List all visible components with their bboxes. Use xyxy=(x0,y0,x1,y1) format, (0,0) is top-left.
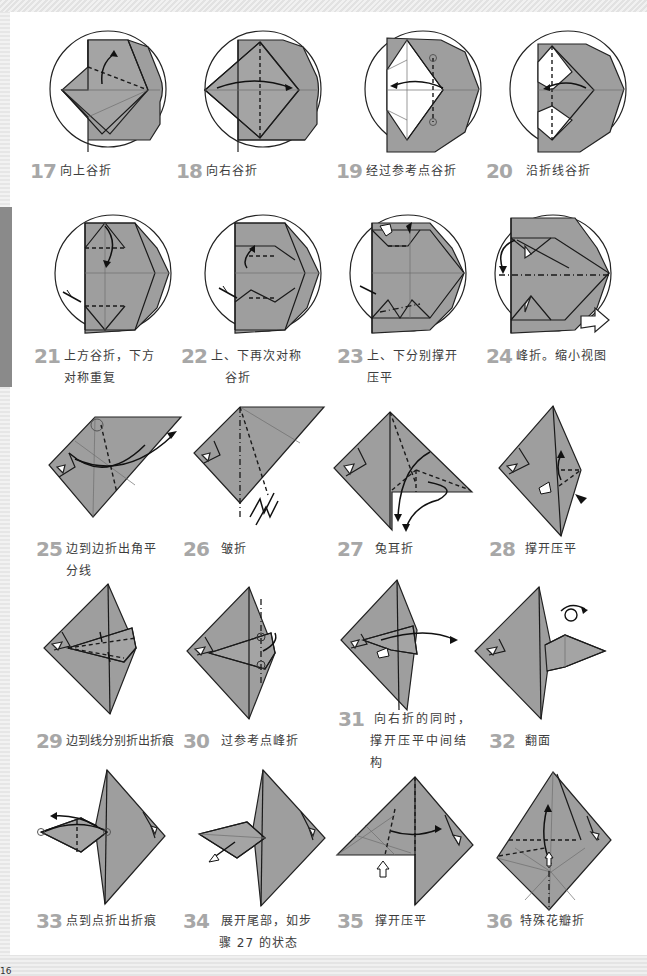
step-36 xyxy=(495,768,625,913)
page-number: 16 xyxy=(0,966,16,976)
caption-32: 32 翻面 xyxy=(489,730,551,752)
step-21 xyxy=(45,208,175,338)
step-text: 构 xyxy=(338,752,478,774)
step-text: 向右谷折 xyxy=(206,160,258,182)
diagram-26 xyxy=(190,405,330,525)
diagram-23 xyxy=(340,208,470,338)
step-text: 皱折 xyxy=(221,538,247,560)
step-text: 兔耳折 xyxy=(375,538,414,560)
step-number: 36 xyxy=(486,910,512,932)
diagram-19 xyxy=(355,22,485,157)
step-32 xyxy=(475,585,615,725)
step-number: 27 xyxy=(337,538,363,560)
step-26 xyxy=(190,405,330,525)
step-text: 分线 xyxy=(36,560,176,582)
step-text: 向上谷折 xyxy=(60,160,112,182)
caption-25: 25 边到边折出角平 分线 xyxy=(36,538,176,582)
step-text: 点到点折出折痕 xyxy=(66,910,157,932)
step-text: 边到边折出角平 xyxy=(66,538,157,560)
diagram-36 xyxy=(495,768,625,913)
step-number: 32 xyxy=(489,730,515,752)
step-text: 上、下分别撑开 xyxy=(367,345,458,367)
step-number: 20 xyxy=(486,160,512,182)
caption-24: 24 峰折。缩小视图 xyxy=(486,345,607,367)
step-17 xyxy=(40,22,170,157)
caption-26: 26 皱折 xyxy=(183,538,247,560)
step-number: 28 xyxy=(489,538,515,560)
caption-17: 17 向上谷折 xyxy=(30,160,112,182)
diagram-24 xyxy=(485,208,625,338)
step-34 xyxy=(195,768,335,918)
step-23 xyxy=(340,208,470,338)
diagram-25 xyxy=(45,405,185,520)
step-text: 向右折的同时， xyxy=(374,708,472,730)
step-number: 21 xyxy=(34,345,60,367)
caption-28: 28 撑开压平 xyxy=(489,538,577,560)
step-33 xyxy=(35,768,175,918)
left-border xyxy=(0,12,10,957)
step-28 xyxy=(495,398,615,538)
step-number: 17 xyxy=(30,160,56,182)
step-22 xyxy=(195,208,325,338)
step-text: 撑开压平 xyxy=(375,910,427,932)
step-number: 30 xyxy=(183,730,209,752)
step-text: 压平 xyxy=(337,367,477,389)
caption-33: 33 点到点折出折痕 xyxy=(36,910,157,932)
chapter-tab xyxy=(0,207,12,387)
step-19 xyxy=(355,22,485,157)
step-text: 谷折 xyxy=(181,367,321,389)
diagram-33 xyxy=(35,768,175,918)
diagram-21 xyxy=(45,208,175,338)
step-35 xyxy=(335,775,475,905)
step-text: 骤 27 的状态 xyxy=(183,932,328,954)
step-text: 展开尾部，如步 xyxy=(221,910,312,932)
step-29 xyxy=(40,580,180,720)
diagram-31 xyxy=(337,578,477,713)
caption-19: 19 经过参考点谷折 xyxy=(336,160,457,182)
diagram-20 xyxy=(500,22,630,157)
step-25 xyxy=(45,405,185,520)
caption-34: 34 展开尾部，如步 骤 27 的状态 xyxy=(183,910,328,954)
step-number: 22 xyxy=(181,345,207,367)
step-number: 24 xyxy=(486,345,512,367)
diagram-34 xyxy=(195,768,335,918)
caption-30: 30 过参考点峰折 xyxy=(183,730,299,752)
step-number: 18 xyxy=(176,160,202,182)
step-text: 上方谷折，下方 xyxy=(64,345,155,367)
step-text: 过参考点峰折 xyxy=(221,730,299,752)
step-number: 31 xyxy=(338,708,364,730)
diagram-22 xyxy=(195,208,325,338)
step-number: 34 xyxy=(183,910,209,932)
step-number: 19 xyxy=(336,160,362,182)
caption-23: 23 上、下分别撑开 压平 xyxy=(337,345,477,389)
caption-21: 21 上方谷折，下方 对称重复 xyxy=(34,345,174,389)
step-number: 26 xyxy=(183,538,209,560)
step-27 xyxy=(330,400,470,535)
caption-31: 31 向右折的同时， 撑开压平中间结 构 xyxy=(338,708,478,774)
diagram-29 xyxy=(40,580,180,720)
step-text: 边到线分别折出折痕 xyxy=(66,730,174,752)
step-text: 特殊花瓣折 xyxy=(520,910,585,932)
diagram-27 xyxy=(330,400,470,535)
step-number: 25 xyxy=(36,538,62,560)
step-text: 峰折。缩小视图 xyxy=(516,345,607,367)
step-number: 33 xyxy=(36,910,62,932)
step-text: 撑开压平中间结 xyxy=(338,730,478,752)
caption-27: 27 兔耳折 xyxy=(337,538,414,560)
diagram-35 xyxy=(335,775,475,905)
diagram-30 xyxy=(183,585,323,725)
caption-18: 18 向右谷折 xyxy=(176,160,258,182)
diagram-32 xyxy=(475,585,615,725)
step-number: 23 xyxy=(337,345,363,367)
step-text: 经过参考点谷折 xyxy=(366,160,457,182)
step-18 xyxy=(195,22,325,157)
step-20 xyxy=(500,22,630,157)
step-text: 对称重复 xyxy=(34,367,174,389)
diagram-17 xyxy=(40,22,170,157)
step-number: 29 xyxy=(36,730,62,752)
step-24 xyxy=(485,208,625,338)
caption-36: 36 特殊花瓣折 xyxy=(486,910,585,932)
step-30 xyxy=(183,585,323,725)
caption-20: 20 沿折线谷折 xyxy=(486,160,591,182)
step-text: 撑开压平 xyxy=(525,538,577,560)
